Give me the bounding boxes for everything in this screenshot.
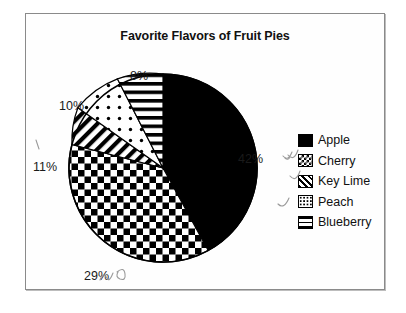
legend-label-cherry: Cherry	[318, 155, 356, 168]
legend-label-keylime: Key Lime	[318, 175, 370, 188]
chart-figure: Favorite Flavors of Fruit Pies	[25, 13, 385, 290]
legend-label-peach: Peach	[318, 196, 353, 209]
legend-item-blueberry: Blueberry	[298, 212, 402, 233]
pie-label-blueberry: 8%	[130, 69, 148, 83]
dots-swatch-icon	[298, 195, 313, 208]
diagonal-lines-swatch-icon	[298, 175, 313, 188]
pie-label-cherry: 29%	[84, 269, 109, 283]
legend-label-apple: Apple	[318, 134, 350, 147]
legend-item-apple: Apple	[298, 130, 402, 151]
checkerboard-swatch-icon	[298, 154, 313, 167]
solid-black-swatch-icon	[298, 134, 313, 147]
legend-label-blueberry: Blueberry	[318, 216, 372, 229]
chart-legend: Apple Cherry Key Lime Peach Blueberry	[298, 130, 402, 233]
legend-item-peach: Peach	[298, 192, 402, 213]
horizontal-lines-swatch-icon	[298, 216, 313, 229]
legend-item-keylime: Key Lime	[298, 171, 402, 192]
pie-label-keylime: 11%	[33, 160, 57, 174]
pie-label-peach: 10%	[59, 99, 84, 113]
legend-item-cherry: Cherry	[298, 151, 402, 172]
pie-label-apple: 42%	[238, 152, 263, 166]
